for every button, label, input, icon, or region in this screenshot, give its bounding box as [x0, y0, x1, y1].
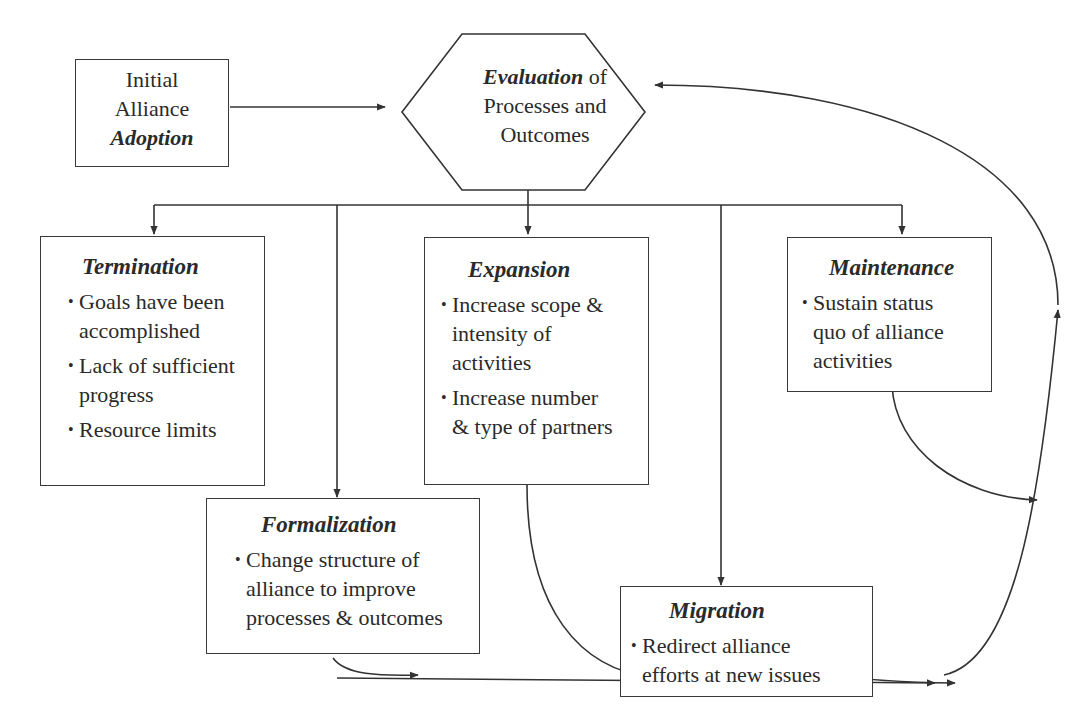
termination-title: Termination — [82, 253, 264, 281]
adoption-line2: Alliance — [76, 94, 228, 123]
expansion-title: Expansion — [468, 256, 648, 284]
expansion-item: • Increase scope &intensity ofactivities — [441, 290, 648, 377]
adoption-line3: Adoption — [76, 123, 228, 152]
curve-formalization-out — [333, 658, 418, 675]
migration-title: Migration — [669, 597, 872, 625]
bullet-icon: • — [235, 545, 246, 632]
migration-box: Migration • Redirect allianceefforts at … — [620, 586, 873, 697]
evaluation-emph: Evaluation — [483, 64, 583, 89]
expansion-box: Expansion • Increase scope &intensity of… — [424, 237, 649, 485]
adoption-line1: Initial — [76, 65, 228, 94]
bullet-icon: • — [68, 415, 79, 444]
termination-box: Termination • Goals have beenaccomplishe… — [40, 236, 265, 486]
bullet-icon: • — [441, 290, 452, 377]
migration-item: • Redirect allianceefforts at new issues — [631, 631, 872, 689]
maintenance-item: • Sustain statusquo of allianceactivitie… — [802, 288, 991, 375]
bullet-icon: • — [802, 288, 813, 375]
evaluation-line2: Processes and — [400, 91, 690, 120]
termination-item: • Goals have beenaccomplished — [68, 287, 264, 345]
termination-item: • Resource limits — [68, 415, 264, 444]
expansion-item: • Increase number& type of partners — [441, 383, 648, 441]
evaluation-rest: of — [583, 64, 607, 89]
curve-maintenance-out — [892, 385, 1037, 500]
bullet-icon: • — [441, 383, 452, 441]
evaluation-label: Evaluation of Processes and Outcomes — [400, 62, 690, 149]
bullet-icon: • — [68, 287, 79, 345]
adoption-box: Initial Alliance Adoption — [75, 59, 229, 167]
termination-item: • Lack of sufficientprogress — [68, 351, 264, 409]
maintenance-title: Maintenance — [829, 254, 991, 282]
formalization-item: • Change structure ofalliance to improve… — [235, 545, 479, 632]
bullet-icon: • — [631, 631, 642, 689]
formalization-title: Formalization — [261, 511, 479, 539]
bullet-icon: • — [68, 351, 79, 409]
evaluation-line3: Outcomes — [400, 120, 690, 149]
maintenance-box: Maintenance • Sustain statusquo of allia… — [787, 237, 992, 392]
formalization-box: Formalization • Change structure ofallia… — [206, 498, 480, 654]
